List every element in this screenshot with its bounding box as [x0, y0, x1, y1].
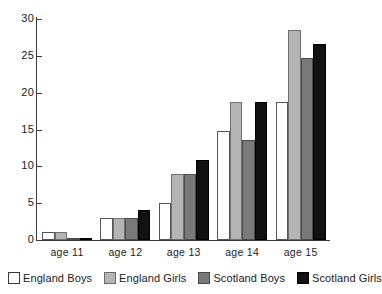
- bar-group: [159, 19, 209, 240]
- legend-item[interactable]: England Girls: [104, 272, 186, 284]
- bar: [171, 174, 184, 240]
- bar: [138, 210, 151, 240]
- legend-label: England Boys: [23, 272, 92, 284]
- bar: [67, 238, 80, 240]
- y-axis-tick-label: 5: [0, 197, 34, 208]
- bar-group: [276, 19, 326, 240]
- bar: [80, 238, 93, 240]
- x-axis-line: [36, 240, 330, 241]
- bar-group: [42, 19, 92, 240]
- legend-label: Scotland Boys: [213, 272, 285, 284]
- bar: [184, 174, 197, 240]
- bar: [301, 58, 314, 240]
- legend-item[interactable]: Scotland Boys: [198, 272, 285, 284]
- bar: [276, 102, 289, 240]
- bar-group: [217, 19, 267, 240]
- bar: [125, 218, 138, 240]
- legend-item[interactable]: Scotland Girls: [297, 272, 382, 284]
- bar: [230, 102, 243, 240]
- plot-area: [37, 19, 329, 240]
- x-axis-label: age 15: [266, 246, 336, 258]
- y-axis-tick-label: 15: [0, 124, 34, 135]
- legend-label: England Girls: [119, 272, 186, 284]
- bar: [100, 218, 113, 240]
- bar: [288, 30, 301, 240]
- y-axis-tick-label: 25: [0, 50, 34, 61]
- bar: [42, 232, 55, 240]
- bar: [313, 44, 326, 240]
- bar: [196, 160, 209, 240]
- bar: [242, 140, 255, 240]
- bar: [55, 232, 68, 240]
- legend-swatch-icon: [198, 272, 210, 284]
- y-axis-tick-label: 30: [0, 13, 34, 24]
- legend-swatch-icon: [8, 272, 20, 284]
- bar: [113, 218, 126, 240]
- bar-group: [100, 19, 150, 240]
- bar: [159, 203, 172, 240]
- legend-label: Scotland Girls: [312, 272, 382, 284]
- bar: [255, 102, 268, 240]
- y-axis-tick-label: 10: [0, 160, 34, 171]
- y-axis-tick-label: 20: [0, 87, 34, 98]
- bar: [217, 131, 230, 240]
- legend-swatch-icon: [104, 272, 116, 284]
- chart-legend: England BoysEngland GirlsScotland BoysSc…: [8, 269, 364, 287]
- y-axis-tick-label: 0: [0, 234, 34, 245]
- legend-swatch-icon: [297, 272, 309, 284]
- y-axis-tick: [37, 240, 42, 241]
- legend-item[interactable]: England Boys: [8, 272, 92, 284]
